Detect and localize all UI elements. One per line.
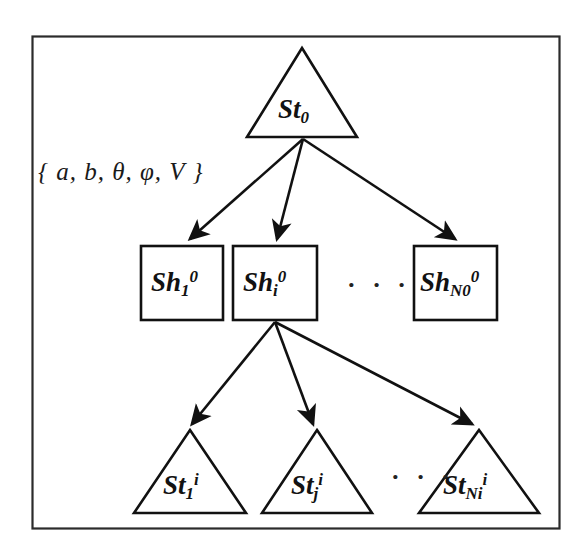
node-base-shi: Sh <box>243 267 273 297</box>
node-label-st1i: St1i <box>163 472 199 499</box>
node-base-st1i: St <box>163 470 186 500</box>
node-sub-shn0: N0 <box>450 281 471 300</box>
node-label-stnii: StNii <box>443 472 487 499</box>
edge-shi-to-st1i <box>192 322 275 424</box>
edge-shi-to-stnii <box>275 322 472 424</box>
node-sub-sh1: 1 <box>181 281 190 300</box>
node-sup-st1i: i <box>194 470 199 489</box>
node-base-stji: St <box>291 470 314 500</box>
node-sup-stji: i <box>318 470 323 489</box>
edge-root-to-shn0 <box>303 139 455 239</box>
node-base-shn0: Sh <box>420 267 450 297</box>
node-label-shn0: ShN00 <box>420 269 479 296</box>
node-sub-st1i: 1 <box>186 484 195 503</box>
node-base-st0: St <box>278 94 301 124</box>
node-sub-stnii: Ni <box>466 484 483 503</box>
node-label-st0: St0 <box>278 96 309 123</box>
node-label-sh1: Sh10 <box>151 269 198 296</box>
edge-root-to-sh1 <box>190 139 303 239</box>
node-sup-shi: 0 <box>278 267 287 286</box>
node-sup-stnii: i <box>483 470 488 489</box>
node-label-shi: Shi0 <box>243 269 286 296</box>
node-sup-sh1: 0 <box>190 267 199 286</box>
node-base-stnii: St <box>443 470 466 500</box>
sheet-level-ellipsis: · · · <box>347 272 411 298</box>
node-base-sh1: Sh <box>151 267 181 297</box>
edge-root-to-shi <box>277 139 303 239</box>
node-sub-st0: 0 <box>301 108 310 127</box>
edge-parameter-label: { a, b, θ, φ, V } <box>38 158 203 186</box>
node-label-stji: Stji <box>291 472 323 499</box>
figure-canvas: St0 { a, b, θ, φ, V } Sh10 Shi0 · · · Sh… <box>0 0 588 558</box>
node-sup-shn0: 0 <box>471 267 480 286</box>
